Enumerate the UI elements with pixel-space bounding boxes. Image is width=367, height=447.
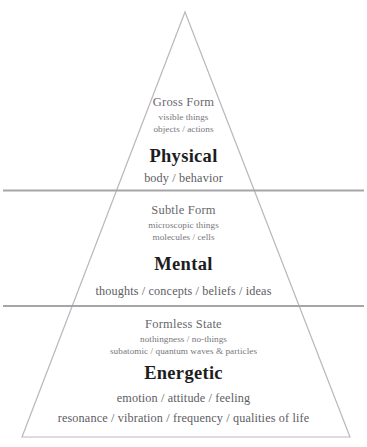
layer-energetic-subheading: Formless State	[0, 317, 367, 332]
layer-physical-subheading: Gross Form	[0, 95, 367, 110]
layer-mental-heading: Mental	[0, 254, 367, 275]
layer-physical-subdetail-1: visible things	[0, 112, 367, 124]
layer-energetic-subdetail-1: nothingness / no-things	[0, 334, 367, 346]
layer-physical-mainline-1: body / behavior	[0, 171, 367, 187]
layer-energetic-mainline-1: emotion / attitude / feeling	[0, 391, 367, 407]
layer-energetic-mainline-2: resonance / vibration / frequency / qual…	[0, 411, 367, 427]
layer-energetic-subdetails: nothingness / no-things subatomic / quan…	[0, 334, 367, 358]
layer-mental-subdetail-2: molecules / cells	[0, 232, 367, 244]
layer-physical-heading: Physical	[0, 146, 367, 167]
layer-energetic-subdetail-2: subatomic / quantum waves & particles	[0, 346, 367, 358]
layer-mental-subdetails: microscopic things molecules / cells	[0, 220, 367, 244]
layer-physical-subdetail-2: objects / actions	[0, 124, 367, 136]
layer-mental-mainline-1: thoughts / concepts / beliefs / ideas	[0, 284, 367, 300]
layer-energetic-heading: Energetic	[0, 363, 367, 384]
layer-physical-subdetails: visible things objects / actions	[0, 112, 367, 136]
layer-mental-subdetail-1: microscopic things	[0, 220, 367, 232]
pyramid-diagram: Gross Form visible things objects / acti…	[0, 0, 367, 447]
layer-mental-subheading: Subtle Form	[0, 203, 367, 218]
